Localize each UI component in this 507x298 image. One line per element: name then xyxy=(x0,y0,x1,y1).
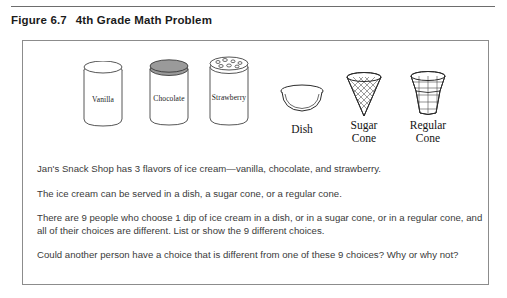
tub-label-chocolate: Chocolate xyxy=(147,94,191,103)
problem-paragraph-3: There are 9 people who choose 1 dip of i… xyxy=(37,212,483,237)
problem-statement: Jan's Snack Shop has 3 flavors of ice cr… xyxy=(37,163,483,262)
tub-label-vanilla: Vanilla xyxy=(81,95,125,104)
regular-cone-shape xyxy=(395,69,461,121)
sugar-cone-label-line2: Cone xyxy=(335,132,393,145)
problem-paragraph-4: Could another person have a choice that … xyxy=(37,249,483,262)
regular-cone-label-line1: Regular xyxy=(395,119,461,132)
tub-label-strawberry: Strawberry xyxy=(207,93,251,102)
regular-cone-icon: Regular Cone xyxy=(395,69,461,143)
ice-cream-tub-strawberry: Strawberry xyxy=(207,55,251,131)
dish-icon: Dish xyxy=(273,83,331,143)
ice-cream-tub-chocolate: Chocolate xyxy=(147,58,191,131)
header-rule xyxy=(11,6,495,7)
sugar-cone-label: Sugar Cone xyxy=(335,119,393,144)
figure-caption: Figure 6.74th Grade Math Problem xyxy=(11,14,212,26)
ice-cream-illustration: Vanilla Chocolate xyxy=(23,41,490,151)
sugar-cone-label-line1: Sugar xyxy=(335,119,393,132)
problem-paragraph-1: Jan's Snack Shop has 3 flavors of ice cr… xyxy=(37,163,483,176)
figure-number: Figure 6.7 xyxy=(11,14,67,26)
figure-frame: Vanilla Chocolate xyxy=(22,40,489,285)
dish-label: Dish xyxy=(273,123,331,136)
regular-cone-label-line2: Cone xyxy=(395,132,461,145)
sugar-cone-icon: Sugar Cone xyxy=(335,71,393,143)
ice-cream-tub-vanilla: Vanilla xyxy=(81,61,125,131)
sugar-cone-shape xyxy=(335,71,393,121)
problem-paragraph-2: The ice cream can be served in a dish, a… xyxy=(37,188,483,201)
figure-title: 4th Grade Math Problem xyxy=(76,14,212,26)
dish-shape xyxy=(273,83,331,117)
regular-cone-label: Regular Cone xyxy=(395,119,461,144)
